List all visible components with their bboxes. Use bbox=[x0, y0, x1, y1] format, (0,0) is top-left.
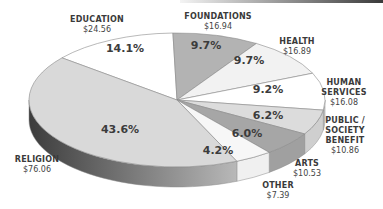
percent-human-services: 9.2% bbox=[253, 83, 284, 96]
percent-education: 14.1% bbox=[106, 42, 144, 55]
label-arts: ARTS $10.53 bbox=[282, 159, 332, 179]
percent-other: 4.2% bbox=[203, 144, 234, 157]
percent-religion: 43.6% bbox=[101, 123, 139, 136]
label-foundations: FOUNDATIONS $16.94 bbox=[182, 12, 254, 32]
label-health: HEALTH $16.89 bbox=[272, 37, 322, 57]
label-other: OTHER $7.39 bbox=[253, 181, 303, 201]
label-public-society-benefit: PUBLIC / SOCIETY BENEFIT $10.86 bbox=[305, 116, 383, 156]
label-human-services: HUMAN SERVICES $16.08 bbox=[313, 78, 375, 108]
percent-arts: 6.0% bbox=[232, 127, 263, 140]
label-religion: RELIGION $76.06 bbox=[12, 155, 62, 175]
label-education: EDUCATION $24.56 bbox=[62, 15, 132, 35]
percent-public-society-benefit: 6.2% bbox=[253, 109, 284, 122]
percent-health: 9.7% bbox=[234, 54, 265, 67]
percent-foundations: 9.7% bbox=[191, 39, 222, 52]
